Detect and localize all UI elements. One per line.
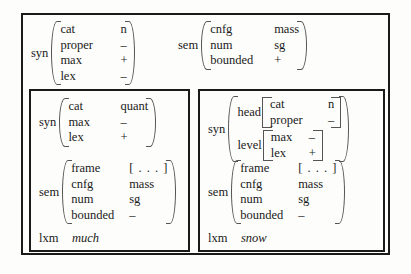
outer-sem-matrix: sem cnfg mass num sg bounded +	[178, 21, 307, 70]
avm-row: bounded –	[240, 208, 337, 224]
avm-row: num sg	[210, 38, 299, 54]
snow-lxm-label: lxm	[208, 231, 241, 246]
avm-row: max +	[60, 53, 127, 69]
bracket-left-icon	[231, 160, 237, 224]
attribute-name: cnfg	[71, 177, 129, 193]
avm-row: lex +	[68, 130, 148, 146]
avm-row: num sg	[71, 192, 168, 208]
attribute-name: bounded	[210, 53, 274, 69]
attribute-value: sg	[274, 38, 285, 54]
outer-sem-rows: cnfg mass num sg bounded +	[207, 21, 301, 70]
lexical-entry-box-much: syn cat quant max – lex +	[29, 89, 190, 252]
attribute-value: +	[120, 130, 127, 146]
attribute-value: mass	[298, 177, 323, 193]
bracket-right-icon	[301, 21, 307, 70]
avm-row: lex –	[60, 69, 127, 85]
attribute-name: num	[71, 192, 129, 208]
bracket-left-icon	[62, 160, 68, 224]
diagram-canvas: syn cat n proper – max + lex –	[0, 0, 411, 274]
attribute-name: cat	[68, 99, 120, 115]
attribute-name: bounded	[240, 208, 298, 224]
bracket-left-icon	[51, 21, 57, 85]
much-syn-rows: cat quant max – lex +	[65, 98, 150, 147]
much-lxm-line: lxm much	[39, 231, 99, 246]
avm-row: max –	[68, 115, 148, 131]
bracket-left-icon	[262, 97, 267, 128]
bracket-right-icon	[129, 21, 135, 85]
avm-row: bounded +	[210, 53, 299, 69]
snow-lxm-line: lxm snow	[208, 231, 267, 246]
attribute-name: proper	[270, 113, 328, 129]
avm-row: num sg	[240, 192, 337, 208]
snow-sem-label: sem	[208, 186, 231, 199]
attribute-name: cnfg	[210, 22, 274, 38]
outer-syn-label: syn	[31, 47, 51, 60]
attribute-name: max	[271, 130, 309, 146]
much-sem-matrix: sem frame [ . . . ] cnfg mass num sg	[39, 160, 176, 224]
attribute-name: cat	[60, 22, 120, 38]
snow-level-label: level	[237, 139, 262, 152]
avm-row: lex +	[271, 146, 316, 162]
attribute-name: cat	[270, 97, 328, 113]
attribute-name: num	[240, 192, 298, 208]
avm-row: bounded –	[71, 208, 168, 224]
avm-row: cnfg mass	[210, 22, 299, 38]
attribute-name: bounded	[71, 208, 129, 224]
attribute-value: [ . . . ]	[129, 161, 168, 177]
avm-row: cnfg mass	[71, 177, 168, 193]
bracket-right-icon	[339, 160, 345, 224]
lexical-entry-box-snow: syn head cat n proper –	[198, 89, 385, 252]
attribute-value: –	[129, 208, 135, 224]
attribute-value: quant	[120, 99, 148, 115]
outer-syn-matrix: syn cat n proper – max + lex –	[31, 21, 135, 85]
outer-sem-label: sem	[178, 39, 201, 52]
bracket-right-icon	[318, 130, 323, 161]
snow-syn-matrix: syn head cat n proper –	[208, 96, 349, 162]
snow-level-matrix: level max – lex +	[237, 130, 341, 161]
avm-row: cat quant	[68, 99, 148, 115]
snow-syn-label: syn	[208, 123, 228, 136]
snow-lxm-word: snow	[241, 231, 267, 246]
snow-head-rows: cat n proper –	[267, 97, 336, 128]
attribute-name: max	[60, 53, 120, 69]
attribute-name: frame	[71, 161, 129, 177]
snow-syn-rows: head cat n proper –	[234, 96, 343, 162]
avm-row: cnfg mass	[240, 177, 337, 193]
avm-row: frame [ . . . ]	[240, 161, 337, 177]
avm-row: proper –	[60, 38, 127, 54]
snow-sem-matrix: sem frame [ . . . ] cnfg mass num sg	[208, 160, 345, 224]
bracket-right-icon	[150, 98, 156, 147]
bracket-left-icon	[59, 98, 65, 147]
avm-row: cat n	[270, 97, 334, 113]
attribute-value: mass	[274, 22, 299, 38]
bracket-left-icon	[263, 130, 268, 161]
avm-row: proper –	[270, 113, 334, 129]
attribute-name: lex	[60, 69, 120, 85]
bracket-right-icon	[343, 96, 349, 162]
attribute-value: –	[120, 115, 126, 131]
attribute-name: proper	[60, 38, 120, 54]
attribute-value: [ . . . ]	[298, 161, 337, 177]
much-syn-label: syn	[39, 116, 59, 129]
attribute-name: max	[68, 115, 120, 131]
snow-sem-rows: frame [ . . . ] cnfg mass num sg bounded…	[237, 160, 339, 224]
avm-row: cat n	[60, 22, 127, 38]
much-sem-rows: frame [ . . . ] cnfg mass num sg bounded…	[68, 160, 170, 224]
attribute-name: frame	[240, 161, 298, 177]
snow-head-label: head	[237, 106, 262, 119]
bracket-left-icon	[228, 96, 234, 162]
attribute-name: lex	[271, 146, 309, 162]
much-lxm-word: much	[72, 231, 99, 246]
avm-row: frame [ . . . ]	[71, 161, 168, 177]
attribute-value: mass	[129, 177, 154, 193]
attribute-value: –	[298, 208, 304, 224]
bracket-right-icon	[170, 160, 176, 224]
snow-head-matrix: head cat n proper –	[237, 97, 341, 128]
attribute-name: cnfg	[240, 177, 298, 193]
attribute-value: sg	[298, 192, 309, 208]
avm-row: max –	[271, 130, 316, 146]
bracket-left-icon	[201, 21, 207, 70]
attribute-name: num	[210, 38, 274, 54]
much-sem-label: sem	[39, 186, 62, 199]
much-lxm-label: lxm	[39, 231, 72, 246]
